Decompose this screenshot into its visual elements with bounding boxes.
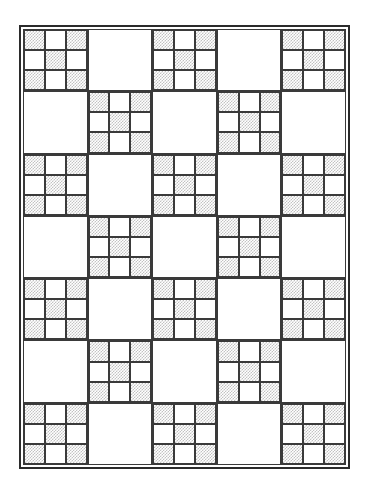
- light-patch: [239, 382, 260, 402]
- shaded-patch: [195, 319, 216, 339]
- light-patch: [195, 50, 216, 70]
- plain-block: [281, 340, 346, 402]
- shaded-patch: [324, 155, 345, 175]
- shaded-patch: [260, 382, 281, 402]
- plain-block: [281, 216, 346, 278]
- light-patch: [174, 155, 195, 175]
- light-patch: [239, 217, 260, 237]
- shaded-patch: [24, 155, 45, 175]
- light-patch: [174, 70, 195, 90]
- shaded-patch: [324, 195, 345, 215]
- plain-block: [88, 154, 153, 216]
- light-patch: [24, 50, 45, 70]
- shaded-patch: [89, 382, 110, 402]
- shaded-patch: [66, 279, 87, 299]
- shaded-patch: [195, 444, 216, 464]
- shaded-patch: [89, 341, 110, 361]
- light-patch: [153, 175, 174, 195]
- shaded-patch: [130, 257, 151, 277]
- shaded-patch: [195, 195, 216, 215]
- ninepatch-block: [88, 91, 153, 153]
- shaded-patch: [303, 299, 324, 319]
- shaded-patch: [89, 257, 110, 277]
- shaded-patch: [109, 362, 130, 382]
- light-patch: [195, 299, 216, 319]
- shaded-patch: [174, 299, 195, 319]
- plain-block: [88, 403, 153, 465]
- shaded-patch: [218, 132, 239, 152]
- light-patch: [303, 404, 324, 424]
- light-patch: [66, 50, 87, 70]
- shaded-patch: [153, 444, 174, 464]
- quilt-outer-border: [19, 25, 350, 469]
- shaded-patch: [130, 217, 151, 237]
- shaded-patch: [24, 444, 45, 464]
- light-patch: [195, 424, 216, 444]
- shaded-patch: [260, 92, 281, 112]
- light-patch: [303, 155, 324, 175]
- shaded-patch: [218, 341, 239, 361]
- light-patch: [174, 319, 195, 339]
- shaded-patch: [66, 155, 87, 175]
- ninepatch-block: [217, 91, 282, 153]
- shaded-patch: [153, 70, 174, 90]
- plain-block: [23, 216, 88, 278]
- shaded-patch: [239, 362, 260, 382]
- plain-block: [88, 278, 153, 340]
- light-patch: [109, 92, 130, 112]
- light-patch: [260, 112, 281, 132]
- plain-block: [217, 403, 282, 465]
- ninepatch-block: [217, 340, 282, 402]
- shaded-patch: [24, 404, 45, 424]
- shaded-patch: [24, 319, 45, 339]
- ninepatch-block: [23, 278, 88, 340]
- ninepatch-block: [23, 29, 88, 91]
- ninepatch-block: [88, 340, 153, 402]
- shaded-patch: [195, 155, 216, 175]
- ninepatch-block: [152, 403, 217, 465]
- shaded-patch: [324, 444, 345, 464]
- shaded-patch: [303, 424, 324, 444]
- shaded-patch: [282, 444, 303, 464]
- shaded-patch: [195, 279, 216, 299]
- light-patch: [239, 132, 260, 152]
- light-patch: [282, 50, 303, 70]
- light-patch: [109, 132, 130, 152]
- light-patch: [260, 237, 281, 257]
- light-patch: [45, 30, 66, 50]
- light-patch: [174, 30, 195, 50]
- ninepatch-block: [23, 403, 88, 465]
- light-patch: [130, 112, 151, 132]
- light-patch: [324, 175, 345, 195]
- shaded-patch: [45, 175, 66, 195]
- shaded-patch: [303, 50, 324, 70]
- light-patch: [109, 382, 130, 402]
- ninepatch-block: [152, 278, 217, 340]
- shaded-patch: [218, 92, 239, 112]
- light-patch: [303, 70, 324, 90]
- shaded-patch: [239, 237, 260, 257]
- light-patch: [239, 341, 260, 361]
- shaded-patch: [324, 279, 345, 299]
- shaded-patch: [282, 195, 303, 215]
- shaded-patch: [282, 404, 303, 424]
- shaded-patch: [260, 257, 281, 277]
- shaded-patch: [109, 237, 130, 257]
- shaded-patch: [153, 30, 174, 50]
- shaded-patch: [174, 424, 195, 444]
- ninepatch-block: [152, 154, 217, 216]
- shaded-patch: [195, 30, 216, 50]
- shaded-patch: [239, 112, 260, 132]
- shaded-patch: [130, 382, 151, 402]
- shaded-patch: [195, 404, 216, 424]
- light-patch: [195, 175, 216, 195]
- shaded-patch: [218, 217, 239, 237]
- ninepatch-block: [88, 216, 153, 278]
- ninepatch-block: [281, 29, 346, 91]
- quilt-layout-diagram: [19, 25, 350, 469]
- light-patch: [45, 70, 66, 90]
- light-patch: [174, 195, 195, 215]
- light-patch: [218, 362, 239, 382]
- shaded-patch: [282, 279, 303, 299]
- shaded-patch: [66, 319, 87, 339]
